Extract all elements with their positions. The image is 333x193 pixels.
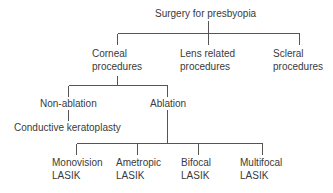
node-lens-related-procedures: Lens related procedures xyxy=(180,48,235,73)
node-label-line: Bifocal xyxy=(181,157,211,170)
node-corneal-procedures: Corneal procedures xyxy=(92,48,142,73)
node-label-line: Ametropic xyxy=(116,157,161,170)
node-label-line: Scleral xyxy=(273,48,323,61)
node-root-label: Surgery for presbyopia xyxy=(155,8,256,21)
node-ametropic-lasik: Ametropic LASIK xyxy=(116,157,161,182)
node-label-line: LASIK xyxy=(52,170,103,183)
node-label-line: Lens related xyxy=(180,48,235,61)
node-label-line: LASIK xyxy=(181,170,211,183)
node-bifocal-lasik: Bifocal LASIK xyxy=(181,157,211,182)
node-conductive-keratoplasty: Conductive keratoplasty xyxy=(14,122,121,135)
node-label-line: LASIK xyxy=(240,170,282,183)
node-multifocal-lasik: Multifocal LASIK xyxy=(240,157,282,182)
node-label: Conductive keratoplasty xyxy=(14,122,121,135)
node-label-line: Multifocal xyxy=(240,157,282,170)
presbyopia-surgery-tree: Surgery for presbyopia Corneal procedure… xyxy=(0,0,333,193)
node-label-line: procedures xyxy=(273,61,323,74)
node-root: Surgery for presbyopia xyxy=(155,8,256,21)
node-label-line: Corneal xyxy=(92,48,142,61)
node-ablation: Ablation xyxy=(150,98,186,111)
node-non-ablation: Non-ablation xyxy=(40,98,97,111)
node-scleral-procedures: Scleral procedures xyxy=(273,48,323,73)
node-monovision-lasik: Monovision LASIK xyxy=(52,157,103,182)
node-label-line: procedures xyxy=(180,61,235,74)
node-label-line: LASIK xyxy=(116,170,161,183)
node-label-line: procedures xyxy=(92,61,142,74)
connector-lines xyxy=(0,0,333,193)
node-label: Ablation xyxy=(150,98,186,111)
node-label: Non-ablation xyxy=(40,98,97,111)
node-label-line: Monovision xyxy=(52,157,103,170)
